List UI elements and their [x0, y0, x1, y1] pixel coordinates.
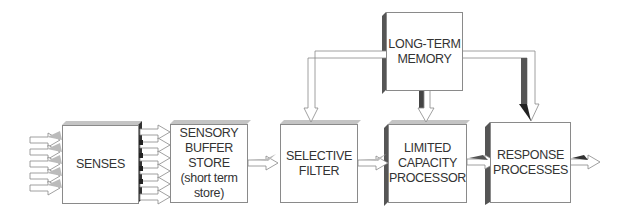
box-limited-capacity: LIMITED CAPACITY PROCESSOR — [388, 124, 467, 203]
input-arrows — [30, 131, 62, 195]
arrow-buffer-to-filter — [248, 156, 278, 170]
box-response-processes: RESPONSE PROCESSES — [490, 122, 571, 203]
arrow-filter-to-processor — [358, 156, 388, 170]
box-senses-label: SENSES — [76, 157, 125, 172]
box-sensory-buffer-label: SENSORY BUFFER STORE (short term store) — [180, 126, 239, 201]
arrow-ltm-to-processor — [418, 90, 434, 122]
box-limited-capacity-label: LIMITED CAPACITY PROCESSOR — [389, 141, 466, 186]
box-sensory-buffer: SENSORY BUFFER STORE (short term store) — [170, 124, 248, 203]
arrow-ltm-to-filter — [304, 51, 386, 122]
senses-to-buffer-arrows — [139, 125, 170, 204]
box-senses: SENSES — [62, 125, 139, 204]
box-selective-filter: SELECTIVE FILTER — [280, 124, 358, 203]
box-long-term-memory-label: LONG-TERM MEMORY — [388, 37, 460, 67]
arrow-ltm-to-response — [462, 51, 539, 121]
box-selective-filter-label: SELECTIVE FILTER — [286, 149, 352, 179]
box-response-processes-label: RESPONSE PROCESSES — [493, 148, 568, 178]
box-long-term-memory: LONG-TERM MEMORY — [386, 12, 463, 91]
